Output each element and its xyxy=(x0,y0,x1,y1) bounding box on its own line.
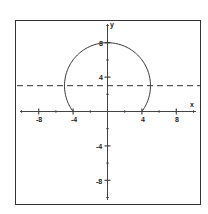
x-tick-label: 8 xyxy=(175,116,179,123)
y-tick-label: 4 xyxy=(99,74,103,81)
y-tick-label: -8 xyxy=(96,178,102,185)
y-axis-label: y xyxy=(110,21,114,29)
x-tick-label: 4 xyxy=(141,116,145,123)
y-tick-label: 8 xyxy=(99,40,103,47)
x-tick-label: -4 xyxy=(71,116,77,123)
x-tick-label: -8 xyxy=(36,116,42,123)
x-axis-label: x xyxy=(190,101,194,108)
graph: x y -8 -4 4 8 8 4 -4 -8 xyxy=(0,0,208,214)
y-tick-label: -4 xyxy=(96,143,102,150)
